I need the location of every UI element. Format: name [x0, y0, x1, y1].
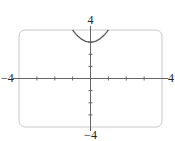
x-max-label: 4 [168, 71, 174, 85]
y-min-label: −4 [84, 128, 97, 141]
y-max-label: 4 [88, 13, 94, 27]
chart: 4 −4 −4 4 [0, 0, 175, 141]
x-min-label: −4 [1, 71, 14, 85]
